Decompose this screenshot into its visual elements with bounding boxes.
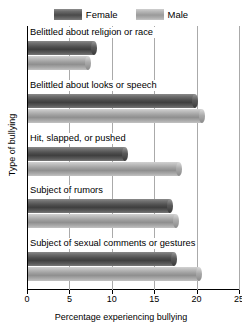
bar-body — [28, 199, 170, 213]
bar-groups: Belittled about religion or raceBelittle… — [28, 26, 240, 290]
tick-label-0: 0 — [15, 294, 39, 304]
bar-end-cap — [196, 267, 202, 281]
bar-end-cap — [171, 252, 177, 266]
category-label: Subject of rumors — [30, 185, 105, 196]
bar-female — [28, 94, 195, 108]
legend-entry-female: Female — [54, 9, 118, 20]
bar-body — [28, 109, 202, 123]
bar-group: Subject of rumors — [28, 184, 240, 237]
bar-body — [28, 147, 125, 161]
category-label: Belittled about religion or race — [30, 27, 155, 38]
bar-group: Belittled about looks or speech — [28, 79, 240, 132]
bar-female — [28, 41, 94, 55]
bar-body — [28, 41, 94, 55]
legend-entry-male: Male — [136, 9, 189, 20]
bar-male — [28, 267, 199, 281]
bar-group: Subject of sexual comments or gestures — [28, 237, 240, 290]
tick-label-10: 10 — [100, 294, 124, 304]
bar-body — [28, 162, 179, 176]
tick-label-25: 25 — [227, 294, 242, 304]
bar-male — [28, 214, 176, 228]
bar-female — [28, 199, 170, 213]
tick-label-5: 5 — [57, 294, 81, 304]
tick-label-15: 15 — [142, 294, 166, 304]
bar-body — [28, 252, 174, 266]
legend-label-female: Female — [86, 9, 118, 20]
bar-group: Belittled about religion or race — [28, 26, 240, 79]
y-axis-title: Type of bullying — [7, 95, 17, 195]
bar-end-cap — [199, 109, 205, 123]
bar-end-cap — [122, 147, 128, 161]
bar-body — [28, 56, 88, 70]
bar-end-cap — [167, 199, 173, 213]
plot-area: Belittled about religion or raceBelittle… — [27, 26, 240, 290]
bar-body — [28, 94, 195, 108]
category-label: Belittled about looks or speech — [30, 80, 159, 91]
bar-body — [28, 214, 176, 228]
x-axis-title: Percentage experiencing bullying — [0, 312, 242, 322]
bar-end-cap — [176, 162, 182, 176]
bar-group: Hit, slapped, or pushed — [28, 132, 240, 185]
bar-male — [28, 162, 179, 176]
bar-end-cap — [192, 94, 198, 108]
legend-swatch-female-icon — [54, 9, 82, 20]
bullying-bar-chart: Female Male Type of bullying Belittled a… — [0, 0, 242, 328]
tick-label-20: 20 — [185, 294, 209, 304]
legend-swatch-male-icon — [136, 9, 164, 20]
bar-female — [28, 147, 125, 161]
bar-end-cap — [85, 56, 91, 70]
bar-end-cap — [91, 41, 97, 55]
chart-legend: Female Male — [0, 4, 242, 24]
category-label: Subject of sexual comments or gestures — [30, 238, 197, 249]
bar-female — [28, 252, 174, 266]
bar-male — [28, 56, 88, 70]
x-axis-ticks: 0510152025 — [27, 290, 240, 306]
bar-end-cap — [173, 214, 179, 228]
bar-male — [28, 109, 202, 123]
legend-label-male: Male — [168, 9, 189, 20]
bar-body — [28, 267, 199, 281]
category-label: Hit, slapped, or pushed — [30, 133, 128, 144]
